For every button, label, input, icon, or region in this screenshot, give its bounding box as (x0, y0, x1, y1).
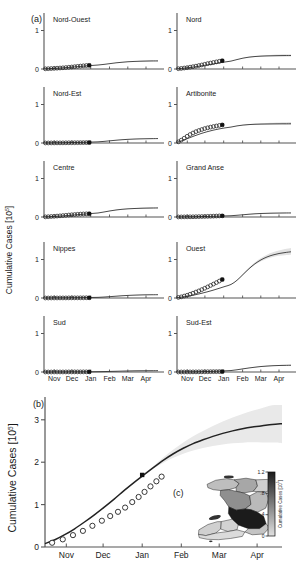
calibration-end-marker (220, 370, 224, 374)
calibration-end-marker (87, 296, 91, 300)
panel-c: (c)1.2.8.40Cumulative Cases [105] (173, 469, 283, 542)
map-island-small (209, 541, 213, 543)
y-tick-label: 1 (168, 256, 172, 263)
subpanel-sud: 01NovDecJanFebMarAprSud (35, 316, 164, 383)
observed-data-point-b (136, 494, 141, 499)
y-tick-label: 1 (35, 27, 39, 34)
calibration-end-marker (87, 370, 91, 374)
observed-data-point-b (159, 474, 164, 479)
x-tick-label: Apr (141, 375, 153, 383)
subpanel-title: Ouest (186, 244, 205, 253)
subpanel-grand-anse: 01Grand Anse (168, 161, 296, 221)
calibration-end-marker-b (140, 473, 144, 477)
subpanel-title: Centre (53, 163, 75, 172)
x-tick-label: Mar (122, 375, 135, 382)
subpanel-nord-ouest: 01Nord-Ouest (35, 13, 164, 73)
observed-data-point-b (148, 484, 153, 489)
subpanel-centre: 01Centre (35, 161, 164, 221)
panel-c-label: (c) (173, 488, 184, 498)
x-tick-label: Jan (85, 375, 96, 382)
y-tick-label: 0 (35, 214, 39, 221)
panel-a: (a)Cumulative Cases [105]01Nord-Ouest01N… (4, 13, 296, 383)
observed-data-point-b (50, 540, 55, 545)
subpanel-title: Sud-Est (186, 318, 212, 327)
y-tick-label: 0 (168, 140, 172, 147)
x-tick-label-b: Nov (59, 550, 75, 560)
figure-cholera-cumulative-cases: (a)Cumulative Cases [105]01Nord-Ouest01N… (0, 0, 296, 567)
observed-data-point-b (130, 499, 135, 504)
observed-data-point-b (142, 489, 147, 494)
y-tick-label: 1 (168, 101, 172, 108)
observed-data-point-b (90, 523, 95, 528)
y-tick-label: 1 (35, 175, 39, 182)
calibration-end-marker (87, 64, 91, 68)
observed-data-point-b (60, 537, 65, 542)
observed-data-point-b (70, 533, 75, 538)
x-tick-label-b: Apr (250, 550, 263, 560)
colorbar-tick-label: 1.2 (258, 469, 265, 475)
colorbar-tick-label: 0 (262, 533, 265, 539)
y-tick-label: 1 (35, 330, 39, 337)
colorbar-axis-label: Cumulative Cases [105] (276, 480, 283, 528)
y-tick-label-b: 3 (34, 415, 39, 425)
subpanel-nippes: 01Nippes (35, 242, 164, 302)
subpanel-ouest: 01Ouest (168, 242, 296, 302)
colorbar (268, 472, 275, 536)
x-tick-label: Dec (66, 375, 79, 382)
y-tick-label: 0 (35, 140, 39, 147)
panel-a-label: (a) (31, 14, 42, 24)
colorbar-tick-label: .8 (260, 490, 264, 496)
subpanel-title: Nord-Est (53, 89, 81, 98)
x-tick-label-b: Dec (96, 550, 112, 560)
map-island-gonave (208, 514, 221, 521)
calibration-end-marker (220, 278, 224, 282)
calibration-end-marker (220, 59, 224, 63)
observed-data-point-b (108, 513, 113, 518)
subpanel-nord: 01Nord (168, 13, 296, 73)
uncertainty-band (177, 248, 291, 298)
y-tick-label: 0 (35, 369, 39, 376)
y-tick-label-b: 1 (34, 500, 39, 510)
calibration-end-marker (220, 123, 224, 127)
observed-data-point-b (123, 505, 128, 510)
y-tick-label: 1 (168, 330, 172, 337)
x-tick-label: Jan (218, 375, 229, 382)
y-tick-label: 0 (35, 295, 39, 302)
y-tick-label: 1 (168, 27, 172, 34)
subpanel-title: Nord-Ouest (53, 15, 90, 24)
subpanel-nord-est: 01Nord-Est (35, 87, 164, 147)
observed-data-point-b (154, 479, 159, 484)
calibration-end-marker (87, 141, 91, 145)
calibration-end-marker (87, 212, 91, 216)
x-tick-label: Dec (199, 375, 212, 382)
x-tick-label-b: Feb (174, 550, 189, 560)
x-tick-label: Mar (255, 375, 268, 382)
subpanel-title: Sud (53, 318, 66, 327)
y-tick-label: 0 (35, 66, 39, 73)
subpanel-title: Grand Anse (186, 163, 224, 172)
map-region-artibonite (220, 490, 251, 511)
x-tick-label: Feb (237, 375, 249, 382)
figure-canvas: (a)Cumulative Cases [105]01Nord-Ouest01N… (0, 0, 296, 567)
map-island-tortuga (224, 476, 234, 479)
observed-data-point-b (99, 518, 104, 523)
x-tick-label-b: Mar (212, 550, 227, 560)
yaxis-label-panel-a: Cumulative Cases [105] (4, 206, 14, 294)
x-tick-label: Nov (48, 375, 61, 382)
subpanel-artibonite: 01Artibonite (168, 87, 296, 147)
map-region-nord-ouest (207, 479, 239, 491)
y-tick-label: 0 (168, 66, 172, 73)
y-tick-label: 1 (35, 101, 39, 108)
yaxis-label-panel-b: Cumulative Cases [105] (6, 423, 18, 532)
y-tick-label-b: 2 (34, 457, 39, 467)
x-tick-label-b: Jan (135, 550, 149, 560)
y-tick-label: 0 (168, 295, 172, 302)
y-tick-label-b: 0 (34, 542, 39, 552)
y-tick-label: 1 (168, 175, 172, 182)
x-tick-label: Nov (181, 375, 194, 382)
x-tick-label: Apr (274, 375, 286, 383)
observed-data-point-b (115, 509, 120, 514)
observed-data-point-b (80, 528, 85, 533)
subpanel-title: Nippes (53, 244, 76, 253)
x-tick-label: Feb (104, 375, 116, 382)
